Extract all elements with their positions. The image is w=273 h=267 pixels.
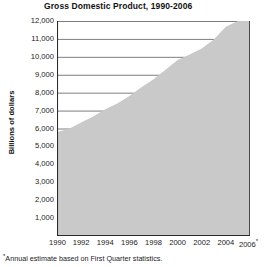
- y-tick-label: 1,000: [12, 213, 54, 222]
- footnote-text: Annual estimate based on First Quarter s…: [5, 254, 162, 263]
- y-tick-label: 6,000: [12, 124, 54, 133]
- y-tick-label: 5,000: [12, 141, 54, 150]
- y-tick-label: 10,000: [12, 52, 54, 61]
- y-tick-label: 12,000: [12, 16, 54, 25]
- y-tick-label: 4,000: [12, 159, 54, 168]
- chart-title: Gross Domestic Product, 1990-2006: [44, 1, 264, 11]
- y-axis-tick-labels: 12,00011,00010,0009,0008,0007,0006,0005,…: [8, 21, 54, 236]
- y-tick-label: 2,000: [12, 195, 54, 204]
- y-tick-label: 3,000: [12, 177, 54, 186]
- x-tick-label: 2000: [169, 238, 186, 247]
- gdp-area-chart-figure: Gross Domestic Product, 1990-2006 Billio…: [0, 0, 273, 267]
- y-tick-label: 7,000: [12, 106, 54, 115]
- x-axis-tick-labels: 199019921994199619982000200220042006*: [57, 238, 257, 250]
- x-tick-label: 2006*: [239, 238, 258, 249]
- x-tick-label: 2004: [217, 238, 234, 247]
- plot-svg: [57, 21, 250, 236]
- chart-footnote: *Annual estimate based on First Quarter …: [3, 253, 162, 263]
- plot-area: [57, 21, 250, 236]
- x-tick-label: 1992: [73, 238, 90, 247]
- x-tick-label: 1996: [121, 238, 138, 247]
- x-tick-label: 1990: [49, 238, 66, 247]
- y-tick-label: 8,000: [12, 88, 54, 97]
- x-tick-label: 1998: [145, 238, 162, 247]
- x-tick-label: 2002: [193, 238, 210, 247]
- x-tick-label: 1994: [97, 238, 114, 247]
- y-tick-label: 9,000: [12, 70, 54, 79]
- y-tick-label: 11,000: [12, 34, 54, 43]
- x-tick-footnote-marker: *: [256, 238, 258, 244]
- gdp-area-series: [57, 21, 250, 236]
